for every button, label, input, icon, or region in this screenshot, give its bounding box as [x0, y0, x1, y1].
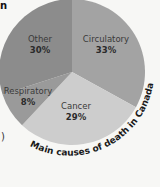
slice-name: Respiratory	[4, 86, 53, 97]
slice-value: 8%	[4, 97, 53, 108]
slice-value: 33%	[83, 45, 129, 56]
slice-value: 30%	[28, 45, 52, 56]
cropped-text-fragment: )	[1, 131, 5, 142]
slice-label-other: Other 30%	[28, 34, 52, 56]
slice-label-cancer: Cancer 29%	[61, 101, 91, 123]
cropped-text-fragment: n	[0, 0, 7, 11]
slice-name: Other	[28, 34, 52, 45]
slice-value: 29%	[61, 112, 91, 123]
pie-chart-figure: Main causes of death in Canada n ) Other…	[0, 0, 160, 187]
pie-slices	[0, 0, 145, 145]
slice-label-circulatory: Circulatory 33%	[83, 34, 129, 56]
slice-name: Circulatory	[83, 34, 129, 45]
slice-label-respiratory: Respiratory 8%	[4, 86, 53, 108]
slice-name: Cancer	[61, 101, 91, 112]
